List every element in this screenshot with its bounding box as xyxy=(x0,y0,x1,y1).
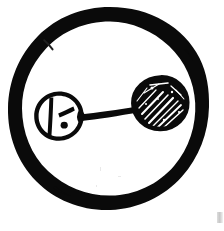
corner-artifact xyxy=(217,212,223,223)
hand-drawn-emblem xyxy=(0,0,224,231)
glyph-dot xyxy=(61,122,68,129)
image-canvas: A thick hand-inked ring enclosing a dumb… xyxy=(0,0,224,231)
right-node xyxy=(133,77,187,129)
